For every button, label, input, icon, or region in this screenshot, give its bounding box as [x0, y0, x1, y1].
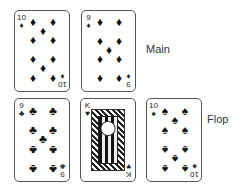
spade-icon: ♠	[149, 110, 158, 118]
flop-label: Flop	[207, 113, 228, 125]
diamond-icon: ♦	[113, 16, 125, 28]
spade-icon: ♠	[179, 163, 191, 175]
card-index-top: 9♣	[17, 102, 26, 118]
card-index-bottom: 10♦	[58, 72, 67, 88]
club-icon: ♣	[27, 105, 39, 117]
card-main-10-diamonds[interactable]: 10♦ 10♦ ♦ ♦ ♦ ♦ ♦ ♦ ♦ ♦ ♦ ♦	[14, 10, 70, 92]
card-index-bottom: 9♦	[124, 72, 133, 88]
card-main-9-diamonds[interactable]: 9♦ 9♦ ♦ ♦ ♦ ♦ ♦ ♦ ♦ ♦ ♦	[81, 10, 136, 92]
card-index-bottom: 10♠	[190, 162, 199, 178]
spade-icon: ♠	[179, 124, 191, 136]
diamond-icon: ♦	[113, 72, 125, 84]
diamond-icon: ♦	[27, 34, 39, 46]
club-icon: ♣	[58, 162, 67, 170]
club-icon: ♣	[47, 163, 59, 175]
card-index-top: 9♦	[84, 14, 93, 30]
diamond-icon: ♦	[124, 72, 133, 80]
diamond-icon: ♦	[94, 72, 106, 84]
spade-icon: ♠	[190, 162, 199, 170]
spade-icon: ♠	[159, 163, 171, 175]
king-portrait-icon	[91, 109, 125, 171]
club-icon: ♣	[47, 144, 59, 156]
card-flop-10-spades[interactable]: 10♠ 10♠ ♠ ♠ ♠ ♠ ♠ ♠ ♠ ♠ ♠ ♠	[146, 98, 202, 182]
card-flop-9-clubs[interactable]: 9♣ 9♣ ♣ ♣ ♣ ♣ ♣ ♣ ♣ ♣ ♣	[14, 98, 70, 182]
card-index-bottom: K♥	[124, 162, 133, 178]
card-index-top: 10♦	[17, 14, 26, 30]
club-icon: ♣	[47, 105, 59, 117]
card-index-bottom: 9♣	[58, 162, 67, 178]
club-icon: ♣	[27, 163, 39, 175]
diamond-icon: ♦	[47, 34, 59, 46]
card-flop-king-hearts[interactable]: K♥ K♥	[80, 98, 136, 182]
diamond-icon: ♦	[113, 53, 125, 65]
diamond-icon: ♦	[94, 16, 106, 28]
club-icon: ♣	[17, 110, 26, 118]
diamond-icon: ♦	[58, 72, 67, 80]
diamond-icon: ♦	[94, 53, 106, 65]
heart-icon: ♥	[124, 162, 133, 170]
diamond-icon: ♦	[84, 22, 93, 30]
diamond-icon: ♦	[47, 72, 59, 84]
main-label: Main	[146, 43, 170, 55]
spade-icon: ♠	[159, 124, 171, 136]
club-icon: ♣	[27, 144, 39, 156]
diamond-icon: ♦	[27, 72, 39, 84]
card-index-top: 10♠	[149, 102, 158, 118]
diamond-icon: ♦	[17, 22, 26, 30]
